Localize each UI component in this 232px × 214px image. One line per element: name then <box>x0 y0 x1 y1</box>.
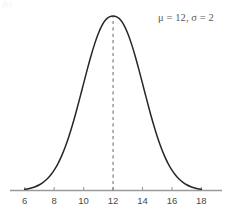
normal-distribution-figure: (b) μ = 12, σ = 2 681012141618 <box>0 0 232 214</box>
axis-group <box>10 187 222 191</box>
x-tick-label-10: 10 <box>78 195 89 206</box>
x-tick-label-6: 6 <box>22 195 27 206</box>
x-tick-label-14: 14 <box>137 195 148 206</box>
distribution-parameters-annotation: μ = 12, σ = 2 <box>158 12 214 23</box>
x-tick-label-12: 12 <box>108 195 119 206</box>
panel-label: (b) <box>2 0 12 9</box>
x-tick-label-18: 18 <box>196 195 207 206</box>
x-tick-label-8: 8 <box>52 195 57 206</box>
plot-area <box>0 0 232 214</box>
x-tick-label-16: 16 <box>167 195 178 206</box>
